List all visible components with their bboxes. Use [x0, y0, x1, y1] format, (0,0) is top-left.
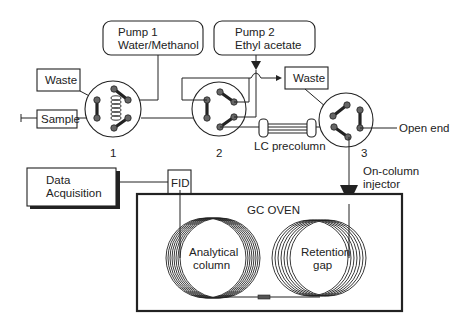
- valve3-label: 3: [361, 147, 367, 159]
- waste-right-label: Waste: [293, 72, 325, 84]
- valve2-label: 2: [216, 147, 222, 159]
- fid-label: FID: [171, 177, 190, 189]
- open-end-label: Open end: [399, 122, 450, 134]
- data-acquisition-box: Data Acquisition: [27, 168, 120, 209]
- pump1-box: Pump 1 Water/Methanol: [103, 21, 203, 55]
- waste-left-box: Waste: [37, 69, 80, 91]
- pump2-label: Pump 2: [235, 26, 275, 38]
- press-fit-connector-icon: [258, 295, 270, 299]
- gc-oven-label: GC OVEN: [247, 204, 300, 216]
- valve1-label: 1: [110, 147, 116, 159]
- waste-left-label: Waste: [45, 74, 77, 86]
- data-acquisition-label-1: Data: [46, 174, 71, 186]
- retention-gap-label-2: gap: [313, 259, 332, 271]
- lc-gc-diagram: Pump 1 Water/Methanol Pump 2 Ethyl aceta…: [0, 0, 463, 326]
- pump2-solvent: Ethyl acetate: [235, 39, 301, 51]
- valve2: [192, 82, 246, 136]
- valve1: [85, 81, 141, 137]
- sample-box: Sample: [37, 110, 80, 128]
- pump2-arrow-icon: [251, 61, 261, 70]
- data-acquisition-label-2: Acquisition: [46, 187, 102, 199]
- lc-precolumn: [259, 119, 316, 137]
- pump1-line: [140, 55, 158, 100]
- injector-label-1: On-column: [363, 165, 419, 177]
- pump1-solvent: Water/Methanol: [118, 39, 199, 51]
- waste-right-box: Waste: [285, 67, 328, 89]
- valve3: [319, 93, 373, 147]
- retention-gap-label-1: Retention: [301, 246, 350, 258]
- sample-label: Sample: [41, 113, 80, 125]
- analytical-column-label-2: column: [193, 259, 230, 271]
- pump1-label: Pump 1: [118, 26, 158, 38]
- sample-loop-coil-icon: [111, 96, 121, 120]
- pump2-box: Pump 2 Ethyl acetate: [214, 21, 315, 55]
- analytical-column-label-1: Analytical: [189, 246, 238, 258]
- waste-arrow-icon: [276, 75, 282, 81]
- injector-label-2: injector: [363, 178, 400, 190]
- lc-precolumn-label: LC precolumn: [254, 140, 326, 152]
